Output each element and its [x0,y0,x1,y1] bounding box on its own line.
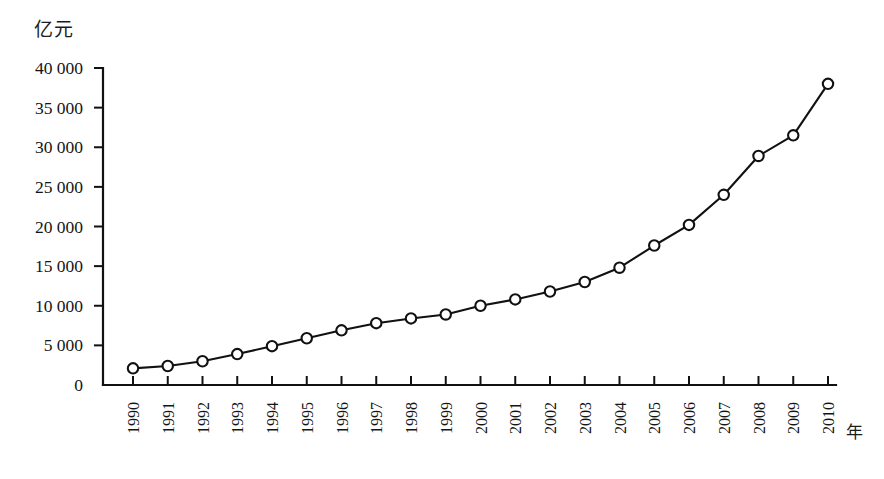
data-point-marker [441,309,451,319]
y-axis-tick-label: 0 [74,375,83,395]
line-chart: 亿元 年 05 00010 00015 00020 00025 00030 00… [0,0,884,479]
x-axis-tick-label: 1992 [195,402,212,434]
x-axis-tick-label: 2002 [542,402,559,434]
y-axis: 05 00010 00015 00020 00025 00030 00035 0… [35,58,103,395]
data-point-marker [128,363,138,373]
x-axis-tick-label: 1993 [229,402,246,434]
y-axis-tick-label: 30 000 [35,137,83,157]
data-point-marker [406,313,416,323]
data-series [133,84,828,369]
x-axis-tick-label: 2001 [507,402,524,434]
data-point-marker [510,294,520,304]
x-axis-tick-label: 2009 [785,402,802,434]
data-point-marker [788,130,798,140]
data-point-marker [580,277,590,287]
x-axis-tick-label: 2004 [612,402,629,434]
x-axis-tick-label: 1998 [403,402,420,434]
x-axis-tick-label: 2005 [646,402,663,434]
x-axis-tick-label: 2000 [473,402,490,434]
x-axis-tick-label: 2003 [577,402,594,434]
data-point-marker [719,190,729,200]
data-point-marker [614,263,624,273]
series-polyline [133,84,828,369]
data-point-marker [197,356,207,366]
data-point-marker [267,341,277,351]
x-axis-tick-label: 1994 [264,402,281,434]
chart-canvas: 05 00010 00015 00020 00025 00030 00035 0… [0,0,884,479]
data-point-marker [649,240,659,250]
x-axis-tick-label: 2006 [681,402,698,434]
data-point-marker [336,325,346,335]
data-point-marker [232,349,242,359]
x-axis-tick-label: 1995 [299,402,316,434]
data-point-marker [163,361,173,371]
y-axis-tick-label: 5 000 [44,335,84,355]
y-axis-tick-label: 20 000 [35,217,83,237]
data-point-marker [371,318,381,328]
x-axis-tick-label: 2007 [716,402,733,434]
x-axis-tick-label: 1991 [160,402,177,434]
y-axis-tick-label: 35 000 [35,98,83,118]
y-axis-tick-label: 40 000 [35,58,83,78]
data-markers [128,79,833,374]
data-point-marker [684,220,694,230]
x-axis-tick-label: 2010 [820,402,837,434]
y-axis-tick-label: 15 000 [35,256,83,276]
x-axis-tick-label: 1999 [438,402,455,434]
y-axis-tick-label: 25 000 [35,177,83,197]
data-point-marker [475,301,485,311]
data-point-marker [823,79,833,89]
x-axis: 1990199119921993199419951996199719981999… [103,376,837,434]
x-axis-tick-label: 1997 [368,402,385,434]
x-axis-tick-label: 1996 [334,402,351,434]
data-point-marker [753,151,763,161]
x-axis-tick-label: 2008 [751,402,768,434]
data-point-marker [302,333,312,343]
y-axis-tick-label: 10 000 [35,296,83,316]
x-axis-tick-label: 1990 [125,402,142,434]
data-point-marker [545,286,555,296]
